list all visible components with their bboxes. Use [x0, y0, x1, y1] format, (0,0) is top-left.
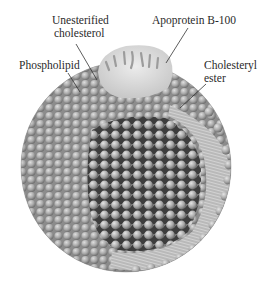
ldl-particle-illustration — [0, 0, 266, 282]
label-cholesteryl-ester: Cholesteryl ester — [204, 59, 257, 85]
label-line: Unesterified — [52, 14, 109, 27]
apoprotein-b100-shape — [98, 45, 173, 98]
label-line: cholesterol — [52, 27, 109, 40]
label-unesterified-cholesterol: Unesterified cholesterol — [52, 14, 109, 40]
label-apoprotein-b100: Apoprotein B-100 — [152, 14, 236, 27]
ldl-diagram: Unesterified cholesterol Apoprotein B-10… — [0, 0, 266, 282]
label-phospholipid: Phospholipid — [19, 59, 80, 72]
leader-apoprotein — [166, 28, 188, 63]
label-line: ester — [204, 72, 257, 85]
label-line: Cholesteryl — [204, 59, 257, 72]
